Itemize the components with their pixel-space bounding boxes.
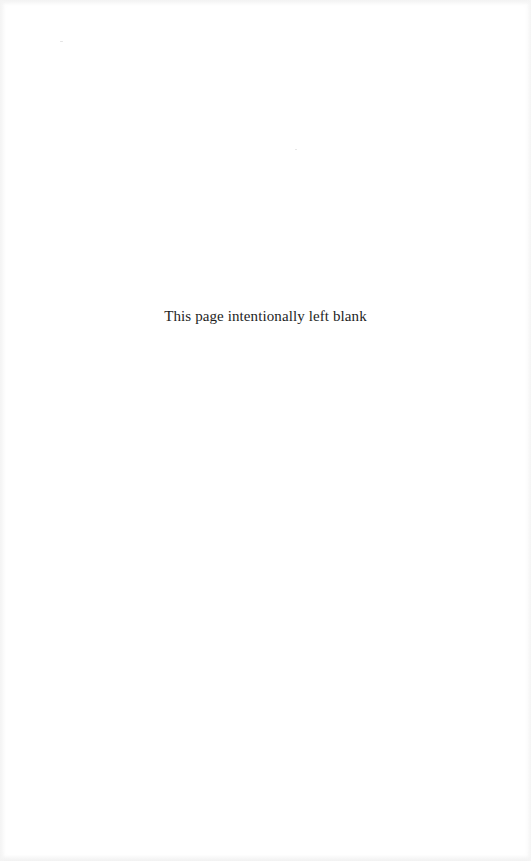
scan-speck xyxy=(60,41,63,42)
page-edge-bottom xyxy=(0,855,531,861)
page-edge-right xyxy=(527,0,531,861)
scan-speck xyxy=(295,149,297,150)
page-edge-left xyxy=(0,0,5,861)
blank-book-page: This page intentionally left blank xyxy=(0,0,531,861)
blank-page-notice: This page intentionally left blank xyxy=(0,306,531,326)
page-edge-top xyxy=(0,0,531,5)
